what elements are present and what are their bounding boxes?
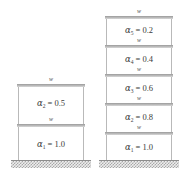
alpha-symbol: α — [37, 139, 43, 149]
storey-stiffness-label: α1 = 1.0 — [18, 140, 84, 150]
storey-stiffness-label: α1 = 1.0 — [106, 143, 172, 153]
alpha-value: = 1.0 — [136, 142, 154, 152]
alpha-subscript: 4 — [131, 59, 134, 65]
alpha-subscript: 5 — [131, 30, 134, 36]
alpha-symbol: α — [125, 25, 131, 35]
alpha-symbol: α — [125, 112, 131, 122]
alpha-subscript: 1 — [43, 144, 46, 150]
alpha-symbol: α — [37, 98, 43, 108]
storey-1: w α1 = 1.0 — [106, 132, 172, 160]
beam-roof — [105, 16, 173, 19]
load-label-w: w — [106, 37, 172, 43]
load-label-w: w — [18, 116, 84, 122]
alpha-value: = 0.5 — [48, 98, 66, 108]
beam-roof — [17, 84, 85, 87]
load-label-w: w — [106, 66, 172, 72]
alpha-subscript: 1 — [131, 147, 134, 153]
storey-stiffness-label: α2 = 0.8 — [106, 113, 172, 123]
beam-floor — [17, 124, 85, 127]
load-label-w: w — [18, 76, 84, 82]
five-storey-frame: w α5 = 0.2 w α4 = 0.4 w α3 = 0.6 — [106, 16, 172, 160]
two-storey-frame: w α2 = 0.5 w α1 = 1.0 — [18, 84, 84, 160]
beam-floor-2 — [105, 103, 173, 106]
load-label-w: w — [106, 124, 172, 130]
storey-stiffness-label: α4 = 0.4 — [106, 55, 172, 65]
alpha-symbol: α — [125, 83, 131, 93]
alpha-symbol: α — [125, 142, 131, 152]
shear-building-diagram: w α2 = 0.5 w α1 = 1.0 w α5 — [0, 0, 185, 183]
beam-floor-4 — [105, 45, 173, 48]
load-label-w: w — [106, 8, 172, 14]
alpha-value: = 0.8 — [136, 112, 154, 122]
alpha-subscript: 2 — [131, 117, 134, 123]
ground-hatching-left — [11, 160, 91, 168]
ground-hatching-right — [99, 160, 179, 168]
storey-stiffness-label: α5 = 0.2 — [106, 26, 172, 36]
beam-floor-3 — [105, 74, 173, 77]
storey-stiffness-label: α2 = 0.5 — [18, 99, 84, 109]
storey-1: w α1 = 1.0 — [18, 124, 84, 160]
alpha-value: = 0.2 — [136, 25, 154, 35]
alpha-value: = 0.6 — [136, 83, 154, 93]
load-label-w: w — [106, 95, 172, 101]
alpha-value: = 1.0 — [48, 139, 66, 149]
alpha-subscript: 3 — [131, 88, 134, 94]
beam-floor-1 — [105, 132, 173, 135]
alpha-subscript: 2 — [43, 103, 46, 109]
alpha-value: = 0.4 — [136, 54, 154, 64]
storey-stiffness-label: α3 = 0.6 — [106, 84, 172, 94]
alpha-symbol: α — [125, 54, 131, 64]
